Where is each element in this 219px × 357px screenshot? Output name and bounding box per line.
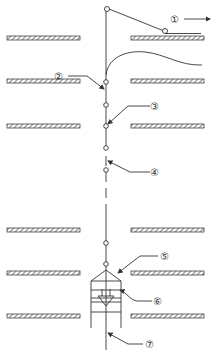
floor-bar-left-4	[7, 228, 80, 232]
floor-bar-right-5	[131, 271, 204, 275]
cable-node-7	[104, 262, 109, 267]
label-4: ④	[150, 167, 159, 178]
floor-bar-left-2	[7, 79, 80, 83]
cable-node-1	[104, 80, 109, 85]
cable-node-6	[104, 241, 109, 246]
floor-bar-right-6	[131, 314, 204, 318]
floor-bar-right-2	[131, 79, 204, 83]
cable-node-2	[104, 103, 109, 108]
leader-6	[120, 290, 152, 301]
curved-cable	[106, 52, 202, 75]
label-2: ②	[54, 71, 63, 82]
floor-bar-left-5	[7, 271, 80, 275]
floor-bar-left-1	[7, 36, 80, 40]
label-3: ③	[150, 101, 159, 112]
floor-bar-left-6	[7, 314, 80, 318]
label-7: ⑦	[145, 339, 154, 350]
label-5: ⑤	[160, 251, 169, 262]
floor-bars	[7, 36, 204, 318]
cable-node-5	[104, 168, 109, 173]
top-pulley-icon	[105, 7, 110, 12]
floor-bar-left-3	[7, 124, 80, 128]
leader-5	[118, 256, 158, 273]
cable-node-4	[104, 146, 109, 151]
label-6: ⑥	[153, 296, 162, 307]
cable-node-3	[104, 124, 109, 129]
diagonal-cable	[109, 9, 164, 31]
diagram-canvas: ① ② ③ ④ ⑤ ⑥ ⑦	[0, 0, 219, 357]
floor-bar-right-1	[131, 36, 204, 40]
leader-4	[108, 161, 150, 172]
lower-pulley-icon	[163, 29, 168, 34]
leader-3	[108, 106, 150, 124]
leader-7	[108, 333, 143, 344]
floor-bar-right-4	[131, 228, 204, 232]
label-1: ①	[170, 14, 179, 25]
floor-bar-right-3	[131, 124, 204, 128]
